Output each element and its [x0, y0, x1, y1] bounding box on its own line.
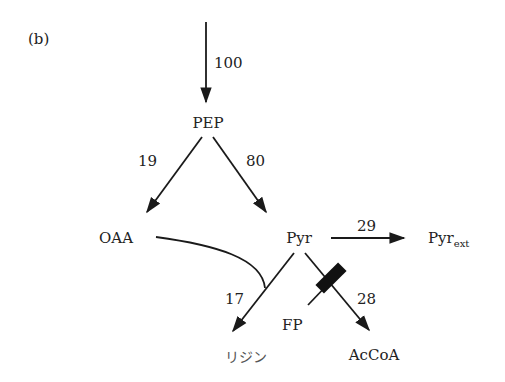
node-fp: FP: [282, 316, 303, 334]
flux-lysine-label: 17: [225, 290, 244, 308]
flux-pyr-pyrext-label: 29: [357, 217, 376, 235]
flux-pyr-accoa-label: 28: [357, 290, 376, 308]
flux-pep-pyr-label: 80: [246, 152, 265, 170]
node-oaa: OAA: [99, 229, 133, 247]
node-accoa: AcCoA: [348, 346, 400, 364]
flux-input-label: 100: [214, 54, 243, 72]
arrow-pep-oaa: [147, 137, 202, 212]
node-pyr-ext: Pyrext: [428, 229, 469, 249]
node-lysine: リジン: [225, 349, 267, 365]
flux-pep-oaa-label: 19: [138, 152, 157, 170]
metabolic-flux-diagram: (b) 100 PEP 19 80 OAA Pyr 29 Pyrext 17 リ…: [0, 0, 505, 382]
arrow-pep-pyr: [213, 137, 266, 212]
panel-label: (b): [28, 30, 49, 48]
node-pyr: Pyr: [286, 229, 313, 247]
node-pep: PEP: [192, 114, 223, 132]
curve-oaa-to-lysine: [156, 237, 265, 288]
inhibitor-bar-icon: [315, 262, 346, 293]
